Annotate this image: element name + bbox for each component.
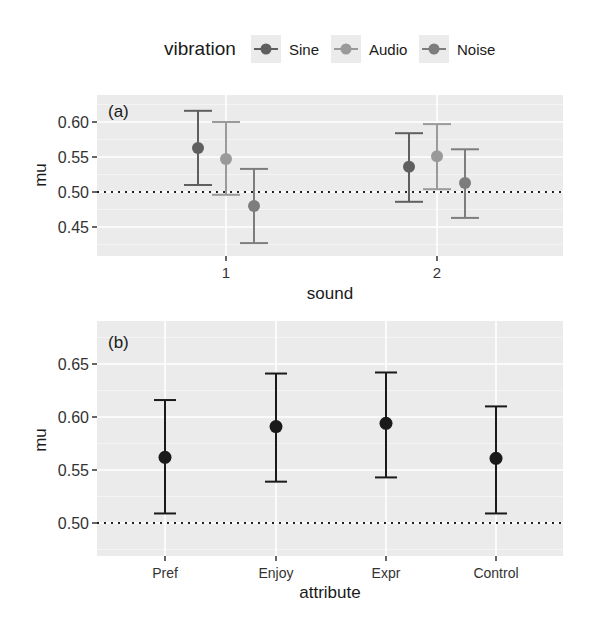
x-tick-label: 2 [433, 264, 441, 281]
legend-label: Noise [457, 41, 495, 58]
y-tick-label: 0.65 [58, 356, 89, 373]
y-tick-label: 0.55 [58, 462, 89, 479]
y-tick-label: 0.60 [58, 409, 89, 426]
panel-b-ylabel: mu [31, 428, 50, 452]
panel-b: (b) 0.500.550.600.65 PrefEnjoyExprContro… [31, 321, 563, 602]
y-tick-label: 0.50 [58, 515, 89, 532]
data-point [431, 150, 443, 162]
panel-b-tag: (b) [108, 333, 129, 352]
x-tick-label: Enjoy [258, 565, 293, 581]
legend-item-sine: Sine [251, 35, 319, 63]
x-tick-label: Pref [152, 565, 178, 581]
data-point [159, 451, 172, 464]
panel-a: (a) 0.450.500.550.60 12 sound mu [31, 95, 563, 303]
data-point [403, 161, 415, 173]
data-point [459, 177, 471, 189]
data-point [380, 417, 393, 430]
figure: vibration SineAudioNoise (a) 0.450.500.5… [0, 0, 591, 627]
x-tick-label: Control [473, 565, 518, 581]
panel-a-xlabel: sound [307, 284, 353, 303]
data-point [270, 420, 283, 433]
x-tick-label: Expr [372, 565, 401, 581]
y-tick-label: 0.55 [58, 149, 89, 166]
data-point [490, 452, 503, 465]
y-tick-label: 0.60 [58, 114, 89, 131]
data-point [220, 153, 232, 165]
legend-title: vibration [164, 38, 236, 59]
panel-a-ylabel: mu [31, 163, 50, 187]
y-tick-label: 0.50 [58, 184, 89, 201]
panel-b-xlabel: attribute [299, 583, 360, 602]
data-point [192, 142, 204, 154]
legend: vibration SineAudioNoise [164, 35, 495, 63]
panel-a-background [97, 95, 563, 256]
legend-item-noise: Noise [419, 35, 495, 63]
data-point [248, 200, 260, 212]
legend-label: Sine [289, 41, 319, 58]
legend-key-point [341, 44, 352, 55]
panel-b-background [97, 321, 563, 556]
legend-item-audio: Audio [331, 35, 407, 63]
legend-label: Audio [369, 41, 407, 58]
legend-key-point [429, 44, 440, 55]
y-tick-label: 0.45 [58, 219, 89, 236]
legend-key-point [261, 44, 272, 55]
x-tick-label: 1 [222, 264, 230, 281]
panel-a-tag: (a) [108, 102, 129, 121]
